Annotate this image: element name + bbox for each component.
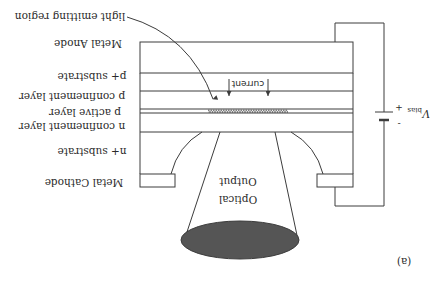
label-n-plus-substrate: n+ substrate <box>57 146 126 158</box>
metal-cathode-left <box>140 174 175 187</box>
bias-label: V bias <box>407 106 430 120</box>
label-n-confinement: n confinement layer <box>18 121 125 133</box>
light-emitting-region <box>208 110 288 114</box>
led-structure-diagram: current Optical Output + - V bias light … <box>0 0 439 283</box>
bias-plus: + <box>395 103 403 113</box>
label-p-confinement: p confinement layer <box>18 91 125 103</box>
curve-left <box>171 132 202 174</box>
figure-label: (a) <box>397 256 411 268</box>
current-label: current <box>231 79 264 89</box>
optical-output-label-2: Output <box>219 176 257 188</box>
label-light-emitting-region: light emitting region <box>15 11 126 23</box>
optical-output-label-1: Optical <box>218 194 257 206</box>
label-metal-cathode: Metal Cathode <box>45 177 124 189</box>
metal-anode <box>140 42 353 73</box>
bias-minus: - <box>397 119 400 129</box>
layer-labels: light emitting region Metal Anode p+ sub… <box>15 11 127 189</box>
bias-circuit <box>335 23 393 206</box>
curve-right <box>291 132 323 174</box>
label-p-active: p active layer <box>48 107 121 119</box>
svg-text:bias: bias <box>407 106 422 114</box>
label-metal-anode: Metal Anode <box>54 38 122 50</box>
label-p-plus-substrate: p+ substrate <box>57 71 126 83</box>
metal-cathode-right <box>317 174 353 187</box>
